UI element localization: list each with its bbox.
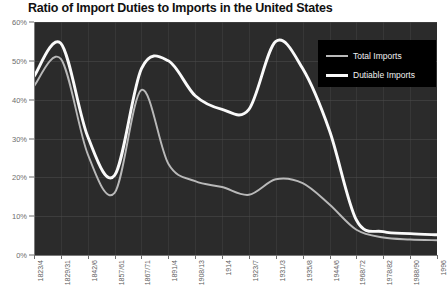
y-axis-line xyxy=(34,22,35,255)
x-tick-label: 1829/31 xyxy=(64,260,71,285)
x-tick-label: 1842/6 xyxy=(91,260,98,281)
x-tick-mark xyxy=(356,255,357,259)
x-tick-label: 1978/82 xyxy=(386,260,393,285)
x-tick-mark xyxy=(141,255,142,259)
x-tick-mark xyxy=(383,255,384,259)
x-tick-mark xyxy=(249,255,250,259)
y-tick-label: 40% xyxy=(12,95,27,104)
x-tick-mark xyxy=(88,255,89,259)
x-tick-label: 1935/8 xyxy=(306,260,313,281)
x-tick-mark xyxy=(437,255,438,259)
x-tick-label: 1867/71 xyxy=(144,260,151,285)
page-title: Ratio of Import Duties to Imports in the… xyxy=(28,1,333,15)
x-tick-label: 1908/13 xyxy=(198,260,205,285)
x-axis: 1823/41829/311842/61857/611867/711891/41… xyxy=(34,255,437,293)
x-tick-label: 1968/72 xyxy=(359,260,366,285)
legend-label-total: Total Imports xyxy=(353,51,402,61)
x-tick-mark xyxy=(115,255,116,259)
y-axis: 0%10%20%30%40%50%60% xyxy=(0,0,34,260)
y-tick-label: 50% xyxy=(12,56,27,65)
x-tick-label: 1988/90 xyxy=(413,260,420,285)
x-tick-label: 1996 xyxy=(440,260,447,276)
x-tick-mark xyxy=(195,255,196,259)
x-tick-mark xyxy=(410,255,411,259)
y-tick-label: 60% xyxy=(12,18,27,27)
legend-item-total-imports: Total Imports xyxy=(326,51,402,61)
x-tick-mark xyxy=(276,255,277,259)
legend-line-icon-dutiable xyxy=(326,74,348,77)
x-tick-mark xyxy=(168,255,169,259)
legend-line-icon-total xyxy=(326,55,348,57)
y-tick-label: 10% xyxy=(12,212,27,221)
x-tick-label: 1891/4 xyxy=(171,260,178,281)
x-tick-mark xyxy=(34,255,35,259)
chart-legend: Total Imports Dutiable Imports xyxy=(318,40,436,87)
x-tick-label: 1944/6 xyxy=(333,260,340,281)
x-tick-label: 1931/3 xyxy=(279,260,286,281)
x-tick-mark xyxy=(330,255,331,259)
legend-item-dutiable-imports: Dutiable Imports xyxy=(326,70,415,80)
x-tick-label: 1923/7 xyxy=(252,260,259,281)
y-tick-label: 30% xyxy=(12,134,27,143)
x-tick-label: 1823/4 xyxy=(37,260,44,281)
x-tick-mark xyxy=(61,255,62,259)
x-tick-mark xyxy=(222,255,223,259)
y-tick-label: 20% xyxy=(12,173,27,182)
x-tick-mark xyxy=(303,255,304,259)
x-tick-label: 1914 xyxy=(225,260,232,276)
x-tick-label: 1857/61 xyxy=(118,260,125,285)
y-tick-label: 0% xyxy=(16,251,27,260)
legend-label-dutiable: Dutiable Imports xyxy=(353,70,415,80)
